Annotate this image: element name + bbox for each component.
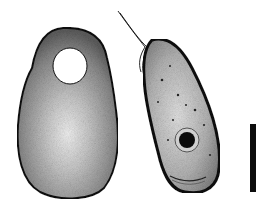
cell-illustration [0,0,267,211]
figure-canvas [0,0,267,211]
vacuole [53,48,87,84]
left-cell [18,28,118,198]
scale-bar [250,124,256,192]
right-cell [144,39,220,193]
nucleus [179,132,195,148]
